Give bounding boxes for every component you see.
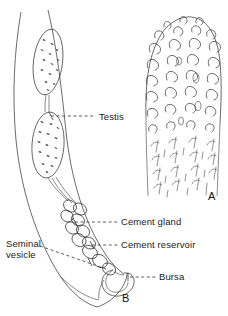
- panel-label-a: A: [208, 190, 215, 202]
- label-cement-reservoir: Cement reservoir: [121, 239, 195, 250]
- leader-lines: [40, 116, 156, 277]
- leader-ticks: [49, 112, 128, 281]
- illustration-svg: [0, 0, 228, 316]
- internal-structures: [177, 57, 202, 125]
- panel-b-body-wall: [14, 10, 127, 307]
- label-seminal-vesicle-line1: Seminal: [6, 238, 41, 249]
- vas-deferens: [48, 177, 76, 203]
- posterior-testis: [30, 111, 67, 179]
- testis-duct: [45, 95, 46, 112]
- figure-canvas: Testis Cement gland Cement reservoir Sem…: [0, 0, 228, 316]
- label-seminal-vesicle-line2: vesicle: [6, 249, 36, 260]
- label-cement-gland: Cement gland: [121, 216, 181, 227]
- cement-gland-chain: [58, 197, 97, 251]
- panel-label-b: B: [122, 292, 129, 304]
- body-spines: [151, 136, 217, 197]
- proboscis-hooks: [146, 17, 220, 133]
- label-bursa: Bursa: [159, 271, 184, 282]
- testis-stipple-posterior: [37, 121, 59, 174]
- label-testis: Testis: [99, 111, 124, 122]
- panel-a-proboscis: [146, 17, 221, 197]
